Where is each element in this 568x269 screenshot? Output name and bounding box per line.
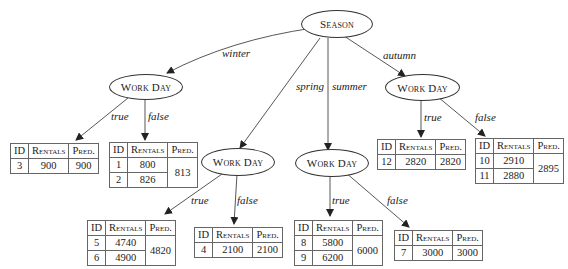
- leaf-spring-false: IDRentalsPred. 421002100: [194, 227, 283, 258]
- root-node-season[interactable]: Season: [301, 10, 373, 38]
- edge-label-autumn: autumn: [383, 49, 416, 61]
- node-label: Work Day: [397, 82, 447, 94]
- edge-label-autumn-true: true: [424, 111, 442, 123]
- edge-label-spring-true: true: [191, 194, 209, 206]
- edge-label-autumn-false: false: [475, 111, 496, 123]
- node-label: Work Day: [307, 157, 357, 169]
- edge-label-winter: winter: [222, 47, 250, 59]
- leaf-summer-true: IDRentalsPred. 858006000 96200: [294, 220, 383, 266]
- leaf-winter-false: IDRentalsPred. 1800813 2826: [109, 142, 198, 188]
- node-spring-work-day[interactable]: Work Day: [201, 148, 275, 176]
- edge-label-spring: spring: [296, 80, 324, 92]
- edge-label-winter-true: true: [111, 110, 129, 122]
- leaf-spring-true: IDRentalsPred. 547404820 64900: [87, 220, 176, 266]
- edge-label-winter-false: false: [148, 110, 169, 122]
- leaf-autumn-false: IDRentalsPred. 1029102895 112880: [475, 138, 564, 184]
- tree-edges: [0, 0, 568, 269]
- node-label: Work Day: [213, 156, 263, 168]
- node-label: Work Day: [121, 81, 171, 93]
- leaf-autumn-true: IDRentalsPred. 1228202820: [377, 139, 466, 170]
- leaf-winter-true: IDRentalsPred. 3900900: [10, 143, 99, 174]
- node-autumn-work-day[interactable]: Work Day: [385, 74, 460, 101]
- edge-label-spring-false: false: [237, 194, 258, 206]
- root-label: Season: [320, 18, 354, 30]
- edge-label-summer-false: false: [387, 194, 408, 206]
- edge-label-summer: summer: [332, 80, 367, 92]
- node-summer-work-day[interactable]: Work Day: [295, 149, 369, 177]
- leaf-summer-false: IDRentalsPred. 730003000: [394, 230, 483, 261]
- edge-label-summer-true: true: [332, 194, 350, 206]
- edge-spring: [240, 38, 320, 148]
- node-winter-work-day[interactable]: Work Day: [109, 74, 183, 100]
